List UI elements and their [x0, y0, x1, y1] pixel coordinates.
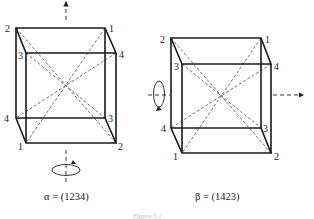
cube-beta: 2 1 3 4 4 3 1 2 β = (1423): [148, 34, 303, 203]
vertex-label: 4: [119, 49, 124, 60]
vertex-label: 1: [18, 141, 23, 152]
cube-alpha: 2 1 3 4 4 3 1 2 α = (1234): [4, 2, 124, 203]
vertex-label: 3: [263, 123, 268, 134]
vertex-label: 4: [274, 61, 279, 72]
caption-alpha: α = (1234): [44, 191, 89, 203]
vertex-label: 1: [173, 151, 178, 162]
cube-rotation-diagram: 2 1 3 4 4 3 1 2 α = (1234) 2 1 3: [0, 0, 314, 219]
vertex-label: 3: [18, 50, 23, 61]
vertex-label: 4: [161, 123, 166, 134]
vertex-label: 2: [274, 151, 279, 162]
vertex-label: 3: [174, 61, 179, 72]
rotation-arrow-icon: [154, 81, 165, 111]
caption-beta: β = (1423): [195, 191, 240, 203]
vertex-label: 2: [5, 23, 10, 34]
vertex-label: 3: [108, 113, 113, 124]
vertex-label: 2: [118, 141, 123, 152]
vertex-label: 1: [265, 34, 270, 45]
vertex-label: 2: [160, 34, 165, 45]
vertex-label: 1: [109, 23, 114, 34]
figure-caption: Figure 5.1: [133, 212, 162, 219]
vertex-label: 4: [4, 113, 9, 124]
